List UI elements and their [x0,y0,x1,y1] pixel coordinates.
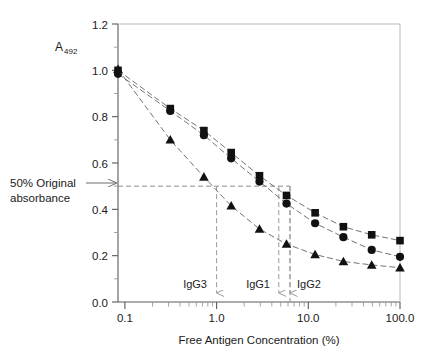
y-axis-title: A 492 [55,40,78,56]
x-tick-label: 100.0 [386,312,415,324]
chart-container: 1.2 1.0 0.8 0.6 0.4 0.2 0.0 A 492 [0,0,421,357]
y-axis-title-subscript: 492 [64,47,78,56]
y-tick-label: 1.0 [92,65,108,77]
series-line [118,69,400,268]
y-tick-label: 0.6 [92,158,108,170]
data-point-square [340,223,348,231]
data-point-circle [396,253,404,261]
y-axis-title-text: A [55,40,63,54]
drop-label-igg2: IgG2 [297,278,321,290]
data-point-square [283,192,291,200]
data-point-triangle [255,224,265,233]
data-series-igg2 [114,67,404,245]
x-axis-tick-labels: 0.1 1.0 10.0 100.0 [117,312,414,324]
reference-line-label: 50% Original absorbance [10,177,76,204]
data-series-layer [113,64,405,271]
reference-label-line2: absorbance [10,192,70,204]
data-point-square [396,237,404,245]
x-axis-minor-ticks [153,302,396,307]
x-tick-label: 10.0 [297,312,319,324]
data-point-circle [200,131,208,139]
data-point-circle [311,219,319,227]
y-tick-label: 0.2 [92,250,108,262]
data-point-circle [166,107,174,115]
x-tick-label: 1.0 [209,312,225,324]
x-axis-major-ticks [125,302,400,309]
data-point-square [368,231,376,239]
reference-label-line1: 50% Original [10,177,76,189]
data-point-triangle [310,250,320,259]
y-tick-label: 0.4 [92,204,109,216]
drop-label-igg3: IgG3 [183,278,207,290]
absorbance-inhibition-chart: 1.2 1.0 0.8 0.6 0.4 0.2 0.0 A 492 [0,0,421,357]
data-point-circle [255,177,263,185]
drop-label-igg1: IgG1 [246,278,270,290]
series-line [118,70,400,240]
y-axis-ticks [112,24,118,302]
y-tick-label: 1.2 [92,19,108,31]
x-axis-title: Free Antigen Concentration (%) [178,334,339,346]
data-point-circle [368,246,376,254]
y-tick-label: 0.8 [92,111,108,123]
y-axis-tick-labels: 1.2 1.0 0.8 0.6 0.4 0.2 0.0 [92,19,109,309]
data-point-circle [282,199,290,207]
data-point-triangle [199,172,209,181]
data-point-circle [227,154,235,162]
drop-line-labels: IgG3 IgG1 IgG2 [183,278,321,290]
plot-frame [118,24,400,302]
x-tick-label: 0.1 [117,312,133,324]
data-point-triangle [395,263,405,272]
data-series-igg3 [113,64,405,271]
data-point-square [311,209,319,217]
y-tick-label: 0.0 [92,297,108,309]
data-point-triangle [165,135,175,144]
data-point-circle [339,233,347,241]
